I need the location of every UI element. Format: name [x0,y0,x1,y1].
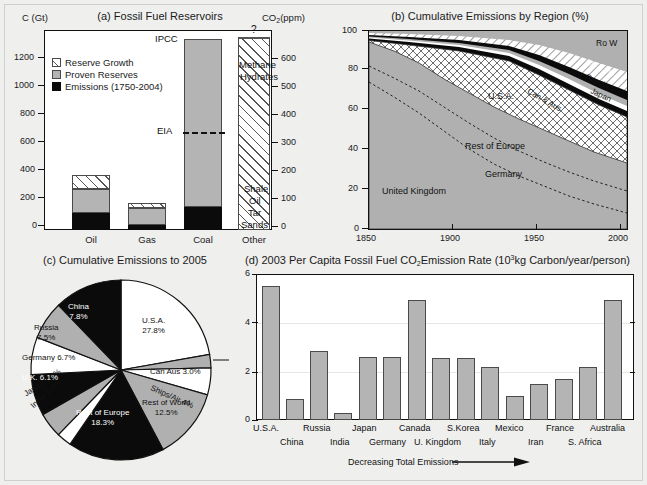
region-label-row: Ro W [596,38,617,48]
panel-a-legend: Reserve Growth Proven Reserves Emissions… [52,57,163,93]
panel-a-ylabel-left: C (Gt) [22,12,48,23]
catlabel-s-africa: S. Africa [568,437,602,447]
pie-label-china: China 7.8% [68,302,89,321]
pie-label-uk: U.K. 6.1% [22,373,58,383]
pie-label-china-value: 7.8% [69,312,87,321]
legend-label-proven-reserves: Proven Reserves [65,69,138,80]
ppm-text: (ppm) [280,12,305,23]
panel-c-title: (c) Cumulative Emissions to 2005 [10,254,240,266]
other-label-shale: Shale [244,183,268,194]
pie-label-rest-of-europe-name: Rest of Europe [76,408,129,417]
pie-label-usa: U.S.A. 27.8% [142,316,165,335]
catlabel-iran: Iran [528,437,544,447]
co2-text: CO [262,12,276,23]
catlabel-australia: Australia [590,423,625,433]
panel-d-title: (d) 2003 Per Capita Fossil Fuel CO2Emiss… [228,254,647,267]
legend-row-proven-reserves: Proven Reserves [52,69,163,81]
category-label-coal: Coal [183,234,223,245]
pie-label-russia-value: 7.5% [37,333,55,342]
frame-bottom [4,480,643,481]
pie-label-rest-of-world: Rest of World 12.5% [142,398,190,417]
pie-label-rest-of-world-name: Rest of World [142,398,190,407]
panel-d-per-capita-emission-rate: (d) 2003 Per Capita Fossil Fuel CO2Emiss… [228,250,647,485]
xtick-1900: 1900 [440,233,460,243]
ytick-0: 0 [245,414,250,424]
other-label-tar: Tar [248,207,261,218]
region-label-usa: U.S.A. [488,91,514,101]
category-label-oil: Oil [71,234,111,245]
catlabel-china: China [280,437,304,447]
catlabel-japan: Japan [352,423,377,433]
region-label-rest-of-europe: Rest of Europe [465,141,525,151]
pie-label-can-aus-name: Can Aus [150,367,180,376]
panel-d-title-post: kg Carbon/year/person) [514,254,630,266]
ytick-6: 6 [245,268,250,278]
bar-s-africa [579,367,597,421]
panel-b-title: (b) Cumulative Emissions by Region (%) [350,10,630,22]
panel-a-ylabel-right: CO2(ppm) [262,12,305,24]
bar-mexico [506,396,524,420]
bar-russia [310,351,328,420]
frame-right [642,4,643,481]
catlabel-u-kingdom: U. Kingdom [414,437,461,447]
panel-a-fossil-fuel-reservoirs: (a) Fossil Fuel Reservoirs C (Gt) CO2(pp… [0,0,330,250]
emissions-swatch-icon [52,82,61,91]
pie-label-usa-name: U.S.A. [142,316,165,325]
panel-a-title: (a) Fossil Fuel Reservoirs [60,10,260,22]
other-label-sands: Sands [241,219,268,230]
panel-b-cumulative-emissions-by-region: (b) Cumulative Emissions by Region (%) [330,0,647,250]
annotation-eia: EIA [157,125,172,136]
bar-france [555,379,573,420]
panel-d-title-mid: Emission Rate (10 [421,254,511,266]
pie-label-rest-of-europe: Rest of Europe 18.3% [76,408,129,427]
other-label-hydrates: Hydrates [240,71,278,82]
catlabel-india: India [330,437,350,447]
reserve-growth-swatch-icon [52,58,61,67]
legend-row-emissions: Emissions (1750-2004) [52,81,163,93]
bar-japan [359,357,377,420]
category-label-other: Other [234,234,274,245]
bar-italy [481,367,499,421]
pie-label-germany-name: Germany [22,353,55,362]
frame-top [4,4,643,5]
frame-left [4,4,5,481]
proven-reserves-swatch-icon [52,70,61,79]
bar-canada [408,300,426,420]
category-label-gas: Gas [127,234,167,245]
pie-label-uk-value: 6.1% [40,373,58,382]
pie-label-can-aus: Can Aus 3.0% [150,367,201,377]
bar-australia [604,300,622,420]
catlabel-canada: Canada [399,423,431,433]
gridline-4 [257,323,633,324]
catlabel-italy: Italy [479,437,496,447]
bar-germany [383,357,401,420]
pie-label-rest-of-world-value: 12.5% [155,408,178,417]
pie-label-russia: Russia 7.5% [34,323,58,342]
ytick-2: 2 [245,366,250,376]
catlabel-france: France [546,423,574,433]
catlabel-germany: Germany [369,437,406,447]
bar-china [286,399,304,420]
other-label-methane: Methane [239,59,276,70]
annotation-question-mark: ? [251,24,257,35]
xtick-1950: 1950 [524,233,544,243]
region-label-united-kingdom: United Kingdom [382,186,446,196]
annotation-ipcc: IPCC [155,33,178,44]
bar-iran [530,384,548,421]
pie-label-usa-value: 27.8% [142,326,165,335]
figure-canvas: (a) Fossil Fuel Reservoirs C (Gt) CO2(pp… [0,0,647,485]
pie-label-uk-name: U.K. [22,373,38,382]
panel-c-cumulative-emissions-to-2005: (c) Cumulative Emissions to 2005 [0,250,245,485]
bar-india [334,413,352,420]
bar-u-kingdom [432,358,450,420]
xtick-2000: 2000 [608,233,628,243]
catlabel-s-korea: S.Korea [447,423,480,433]
pie-label-china-name: China [68,302,89,311]
ytick-4: 4 [245,317,250,327]
region-label-germany: Germany [485,169,522,179]
catlabel-russia: Russia [303,423,331,433]
legend-label-emissions: Emissions (1750-2004) [65,81,163,92]
legend-row-reserve-growth: Reserve Growth [52,57,163,69]
panel-d-title-pre: (d) 2003 Per Capita Fossil Fuel CO [245,254,417,266]
catlabel-mexico: Mexico [495,423,524,433]
